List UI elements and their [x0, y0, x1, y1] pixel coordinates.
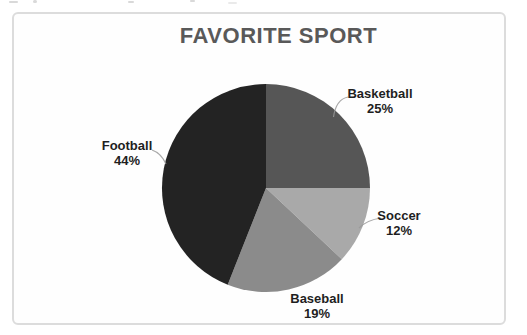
data-label-basketball-value: 25% [330, 101, 430, 116]
data-label-soccer-name: Soccer [349, 208, 449, 223]
data-label-baseball-value: 19% [267, 306, 367, 321]
data-label-baseball-name: Baseball [267, 291, 367, 306]
data-label-football: Football 44% [77, 138, 177, 168]
data-label-soccer: Soccer 12% [349, 208, 449, 238]
data-label-football-value: 44% [77, 153, 177, 168]
data-label-soccer-value: 12% [349, 223, 449, 238]
data-label-basketball: Basketball 25% [330, 86, 430, 116]
data-label-football-name: Football [77, 138, 177, 153]
data-label-basketball-name: Basketball [330, 86, 430, 101]
data-label-baseball: Baseball 19% [267, 291, 367, 321]
chart-image: FAVORITE SPORT Basketball 25% Soccer 12%… [0, 0, 527, 335]
